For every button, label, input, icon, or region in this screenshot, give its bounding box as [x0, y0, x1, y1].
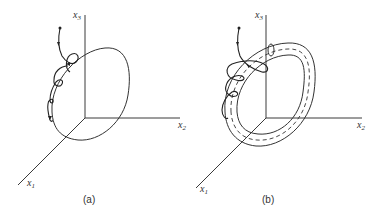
figure: x3 x2 x1 (a) x3 x2 x1 (b): [0, 0, 381, 217]
tube-inner: [237, 55, 304, 134]
panel-a: x3 x2 x1 (a): [18, 9, 186, 205]
start-point: [238, 27, 241, 30]
caption-a: (a): [83, 194, 95, 205]
x1-axis: [196, 118, 266, 188]
x3-label: x3: [254, 9, 263, 22]
panel-b: x3 x2 x1 (b): [196, 9, 365, 205]
tube-outer: [225, 43, 315, 146]
arrow-icon: [236, 42, 239, 46]
x1-label: x1: [199, 183, 208, 196]
x2-label: x2: [177, 119, 186, 132]
x3-label: x3: [72, 9, 81, 22]
x2-label: x2: [356, 119, 365, 132]
caption-b: (b): [262, 194, 274, 205]
arrow-icon: [48, 116, 52, 120]
start-point: [59, 27, 62, 30]
closed-orbit: [52, 48, 129, 140]
x1-axis: [18, 118, 85, 185]
closed-orbit-dashed: [231, 49, 309, 140]
x1-label: x1: [26, 177, 35, 190]
arrow-icon: [57, 42, 60, 46]
trajectory: [222, 28, 268, 119]
